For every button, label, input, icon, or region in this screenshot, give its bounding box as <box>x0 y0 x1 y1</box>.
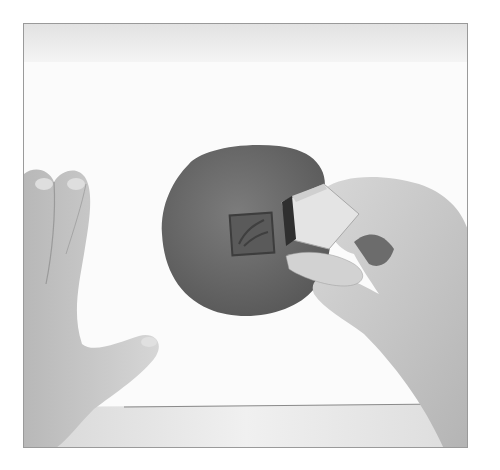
stamp-impression <box>230 213 275 256</box>
fingernail <box>67 178 85 190</box>
photo-frame: Grayscale photo of hands pressing a squa… <box>23 23 468 448</box>
photo-illustration <box>24 24 468 448</box>
thumbnail <box>141 337 157 347</box>
table-band-top <box>24 24 468 62</box>
fingernail <box>35 178 53 190</box>
